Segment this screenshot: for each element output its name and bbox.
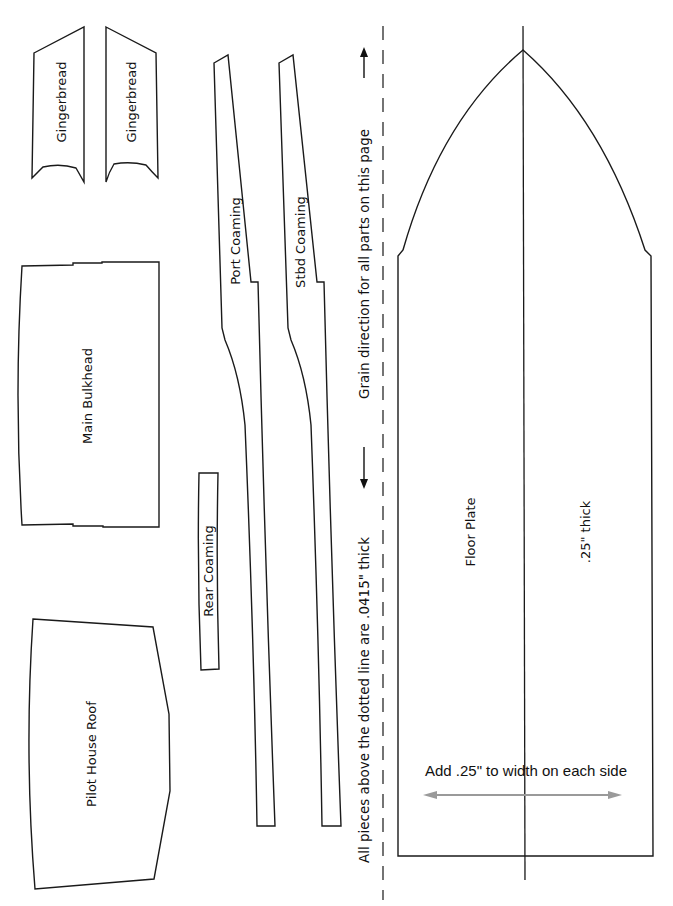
- part-label-main-bulkhead: Main Bulkhead: [80, 348, 95, 444]
- floor-plate-thickness-label: .25" thick: [578, 500, 593, 563]
- part-label-gingerbread-2: Gingerbread: [124, 61, 139, 142]
- floor-plate-width-note: Add .25" to width on each side: [425, 762, 627, 779]
- part-floor-plate: Floor Plate .25" thick Add .25" to width…: [398, 26, 653, 880]
- part-label-gingerbread-1: Gingerbread: [54, 61, 69, 142]
- thickness-note-text: All pieces above the dotted line are .04…: [356, 537, 372, 863]
- part-label-floor-plate: Floor Plate: [463, 498, 478, 567]
- part-gingerbread-2: Gingerbread: [106, 27, 158, 182]
- part-port-coaming: Port Coaming: [214, 55, 275, 826]
- part-gingerbread-1: Gingerbread: [32, 27, 84, 182]
- part-label-port-coaming: Port Coaming: [228, 197, 243, 285]
- part-label-pilot-house-roof: Pilot House Roof: [84, 701, 99, 807]
- part-rear-coaming: Rear Coaming: [198, 473, 219, 670]
- grain-direction-text: Grain direction for all parts on this pa…: [356, 129, 372, 399]
- part-stbd-coaming: Stbd Coaming: [279, 55, 341, 826]
- part-pilot-house-roof: Pilot House Roof: [29, 619, 170, 889]
- part-main-bulkhead: Main Bulkhead: [18, 262, 159, 527]
- parts-sheet: Gingerbread Gingerbread Main Bulkhead Pi…: [0, 0, 673, 906]
- part-label-stbd-coaming: Stbd Coaming: [293, 196, 308, 288]
- grain-direction-note: Grain direction for all parts on this pa…: [356, 52, 372, 484]
- part-label-rear-coaming: Rear Coaming: [201, 525, 216, 617]
